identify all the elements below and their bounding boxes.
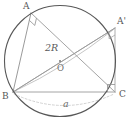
vertex-label-A: A — [23, 2, 30, 11]
geometry-figure: A A' B C 2R a O — [0, 0, 132, 123]
vertex-label-C: C — [119, 90, 126, 99]
right-angle-at-A — [29, 18, 36, 25]
vertex-label-A-prime: A' — [117, 17, 126, 26]
side-length-label-a: a — [63, 99, 69, 109]
side-AB — [13, 13, 31, 92]
vertex-label-B: B — [2, 92, 9, 101]
arc-layer — [14, 30, 114, 106]
diameter-B-A-prime — [13, 28, 115, 92]
center-dot-O — [59, 60, 61, 62]
center-label-O: O — [57, 64, 64, 73]
center-dot-layer — [59, 60, 61, 62]
diameter-label-2R: 2R — [45, 43, 58, 53]
segment-layer — [13, 13, 115, 92]
